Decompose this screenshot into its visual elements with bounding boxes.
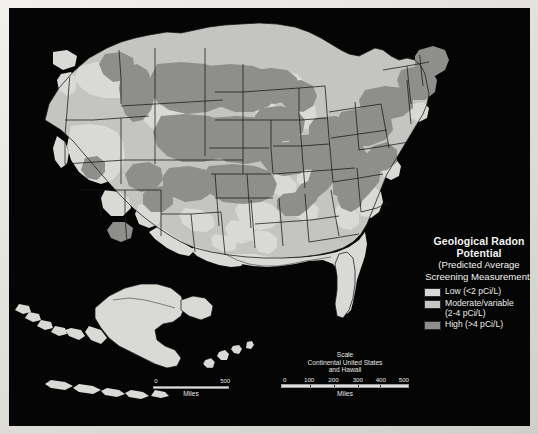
legend-subtitle-line1: (Predicted Average — [413, 260, 530, 271]
scale-tick-1: 100 — [304, 376, 314, 383]
legend-swatch-high — [424, 321, 441, 330]
scale-caption-line1: Scale — [281, 351, 409, 359]
radon-potential-map-screenshot: .low { fill: #d9d9d5; } .mod { fill: #c4… — [0, 0, 538, 434]
scale-ak-bar-graphic — [153, 386, 229, 389]
scale-ak-tick-labels: 0 500 — [153, 378, 229, 386]
scale-tick-labels: 0 100 200 300 400 500 — [281, 376, 409, 384]
florida — [335, 252, 355, 318]
scale-bar-continental: Scale Continental United States and Hawa… — [281, 351, 409, 397]
legend-label-high: High (>4 pCi/L) — [445, 320, 503, 329]
scale-tick-4: 400 — [376, 376, 386, 383]
scale-bar-alaska: 0 500 Miles — [153, 378, 229, 397]
legend-item-low: Low (<2 pCi/L) — [424, 287, 530, 297]
legend-label-moderate: Moderate/variable (2-4 pCi/L) — [445, 299, 514, 318]
legend-item-high: High (>4 pCi/L) — [424, 320, 530, 330]
us-radon-map: .low { fill: #d9d9d5; } .mod { fill: #c4… — [9, 8, 530, 426]
legend-swatch-low — [424, 288, 441, 297]
legend-swatch-moderate — [424, 300, 441, 309]
map-plate: .low { fill: #d9d9d5; } .mod { fill: #c4… — [9, 8, 530, 426]
legend-subtitle-line2: Screening Measurement) — [413, 272, 530, 283]
legend-title-line1: Geological Radon — [413, 236, 530, 248]
legend-items: Low (<2 pCi/L) Moderate/variable (2-4 pC… — [413, 287, 530, 330]
conus-landmass — [45, 23, 449, 318]
scale-tick-3: 300 — [353, 376, 363, 383]
scale-bar-graphic — [281, 384, 409, 388]
scale-tick-0: 0 — [283, 376, 286, 383]
scale-ak-unit-label: Miles — [153, 390, 229, 397]
scale-tick-2: 200 — [328, 376, 338, 383]
legend-title-line2: Potential — [413, 248, 530, 260]
hawaii-inset — [203, 341, 254, 368]
map-legend: Geological Radon Potential (Predicted Av… — [413, 236, 530, 332]
scale-ak-tick-0: 0 — [154, 378, 157, 384]
scale-ak-tick-1: 500 — [220, 378, 230, 384]
scale-caption-line3: and Hawaii — [281, 366, 409, 374]
scale-unit-label: Miles — [281, 390, 409, 397]
legend-item-moderate: Moderate/variable (2-4 pCi/L) — [424, 299, 530, 318]
legend-label-low: Low (<2 pCi/L) — [445, 287, 501, 296]
scale-tick-5: 500 — [399, 376, 409, 383]
